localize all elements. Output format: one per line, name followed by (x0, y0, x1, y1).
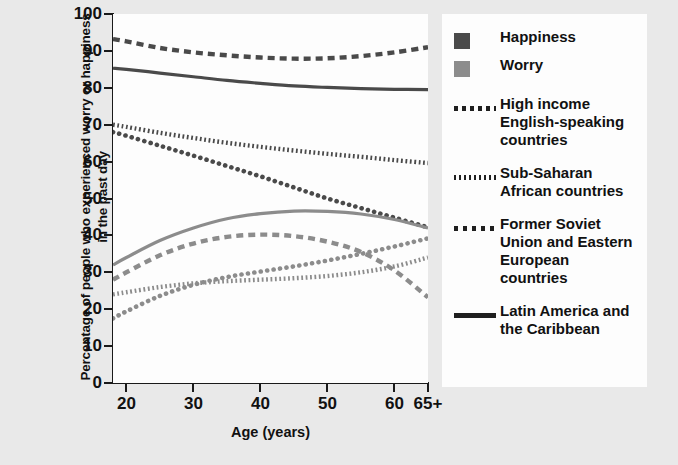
x-tick-label: 40 (237, 394, 283, 414)
legend-line-sample (454, 313, 496, 318)
legend-line-sample (454, 106, 496, 111)
legend-key-icon (454, 164, 500, 188)
legend-key-icon (454, 95, 500, 119)
series-line (113, 125, 428, 163)
x-tick (192, 384, 194, 392)
y-tick-label: 80 (58, 79, 102, 96)
y-tick-label: 30 (58, 263, 102, 280)
legend-label: Worry (500, 56, 543, 74)
legend-swatch (454, 33, 470, 49)
y-tick-label: 90 (58, 42, 102, 59)
legend-label: Sub-Saharan African countries (500, 164, 639, 200)
x-tick-label: 65+ (405, 394, 451, 414)
legend-item[interactable]: Former Soviet Union and Eastern European… (454, 215, 639, 287)
y-tick-label: 100 (58, 5, 102, 22)
plot-area (113, 14, 428, 383)
y-tick-label: 0 (58, 374, 102, 391)
legend-item[interactable]: Happiness (454, 28, 639, 52)
legend-item[interactable]: Worry (454, 56, 639, 80)
legend-line-sample (454, 175, 496, 180)
y-tick-label: 10 (58, 337, 102, 354)
x-tick-label: 20 (103, 394, 149, 414)
legend-label: High income English-speaking countries (500, 95, 639, 149)
x-tick-label: 50 (304, 394, 350, 414)
x-tick-label: 30 (170, 394, 216, 414)
x-tick (427, 384, 429, 392)
y-tick-label: 50 (58, 190, 102, 207)
x-axis-title: Age (years) (113, 424, 428, 440)
y-tick-label: 20 (58, 300, 102, 317)
y-tick-label: 70 (58, 116, 102, 133)
x-tick (259, 384, 261, 392)
x-tick (326, 384, 328, 392)
legend-label: Latin America and the Caribbean (500, 302, 639, 338)
legend-key-icon (454, 56, 500, 80)
y-tick-label: 60 (58, 153, 102, 170)
legend-key-icon (454, 215, 500, 239)
chart-figure: Percentage of people who experienced wor… (0, 0, 678, 465)
legend-item[interactable]: High income English-speaking countries (454, 95, 639, 149)
legend-key-icon (454, 28, 500, 52)
legend-key-icon (454, 302, 500, 326)
legend-line-sample (454, 226, 496, 231)
x-tick (125, 384, 127, 392)
legend-item[interactable]: Latin America and the Caribbean (454, 302, 639, 338)
x-tick (393, 384, 395, 392)
y-tick-label: 40 (58, 226, 102, 243)
series-line (113, 68, 428, 89)
legend-label: Happiness (500, 28, 576, 46)
legend-label: Former Soviet Union and Eastern European… (500, 215, 639, 287)
legend-item[interactable]: Sub-Saharan African countries (454, 164, 639, 200)
legend: HappinessWorryHigh income English-speaki… (442, 14, 647, 387)
series-lines (113, 14, 428, 383)
series-line (113, 39, 428, 59)
series-line (113, 235, 428, 298)
legend-swatch (454, 61, 470, 77)
